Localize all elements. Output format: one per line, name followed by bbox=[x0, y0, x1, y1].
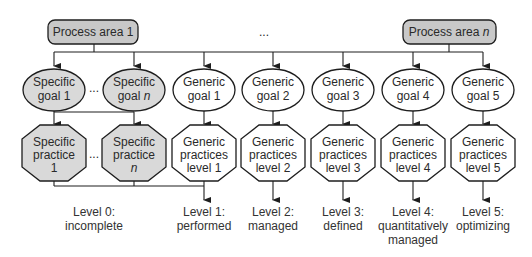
svg-text:practices: practices bbox=[459, 148, 507, 162]
svg-text:Level 5:: Level 5: bbox=[462, 205, 504, 219]
process-area-n-label: Process area n bbox=[409, 25, 490, 39]
svg-text:defined: defined bbox=[323, 219, 362, 233]
svg-text:Generic: Generic bbox=[252, 75, 294, 89]
svg-text:Generic: Generic bbox=[462, 135, 504, 149]
svg-text:managed: managed bbox=[248, 219, 298, 233]
svg-text:Generic: Generic bbox=[392, 75, 434, 89]
practice-generic-level-4: Generic practices level 4 bbox=[381, 125, 445, 181]
goal-specific-n: Specific goal n bbox=[103, 69, 165, 111]
svg-text:Generic: Generic bbox=[252, 135, 294, 149]
process-area-1: Process area 1 bbox=[48, 20, 138, 44]
level-2-label: Level 2: managed bbox=[248, 205, 298, 233]
svg-text:quantitatively: quantitatively bbox=[378, 219, 448, 233]
process-area-n: Process area n bbox=[403, 20, 496, 44]
practice-generic-level-3: Generic practices level 3 bbox=[311, 125, 375, 181]
svg-text:level 2: level 2 bbox=[256, 161, 291, 175]
svg-text:goal 1: goal 1 bbox=[188, 89, 221, 103]
svg-text:practices: practices bbox=[319, 148, 367, 162]
level-0-label: Level 0: incomplete bbox=[65, 205, 123, 233]
goal-specific-1: Specific goal 1 bbox=[23, 69, 85, 111]
svg-text:optimizing: optimizing bbox=[456, 219, 510, 233]
svg-text:Specific: Specific bbox=[113, 135, 155, 149]
level-4-label: Level 4: quantitatively managed bbox=[378, 205, 448, 247]
svg-text:Specific: Specific bbox=[113, 75, 155, 89]
svg-text:Specific: Specific bbox=[33, 75, 75, 89]
top-connectors bbox=[54, 44, 483, 66]
svg-text:managed: managed bbox=[388, 233, 438, 247]
svg-text:goal n: goal n bbox=[118, 89, 151, 103]
svg-text:goal 4: goal 4 bbox=[397, 89, 430, 103]
svg-text:practices: practices bbox=[389, 148, 437, 162]
practice-specific-n: Specific practice n bbox=[102, 125, 166, 181]
svg-text:Generic: Generic bbox=[322, 75, 364, 89]
svg-text:Generic: Generic bbox=[462, 75, 504, 89]
process-area-1-label: Process area 1 bbox=[53, 25, 134, 39]
goal-ellipsis: ... bbox=[89, 81, 99, 95]
goal-generic-3: Generic goal 3 bbox=[312, 69, 374, 111]
practice-specific-1: Specific practice 1 bbox=[22, 125, 86, 181]
goal-generic-5: Generic goal 5 bbox=[452, 69, 514, 111]
goal-generic-4: Generic goal 4 bbox=[382, 69, 444, 111]
svg-text:Level 2:: Level 2: bbox=[252, 205, 294, 219]
svg-text:Level 3:: Level 3: bbox=[322, 205, 364, 219]
level-3-label: Level 3: defined bbox=[322, 205, 364, 233]
svg-text:performed: performed bbox=[177, 219, 232, 233]
svg-text:Level 4:: Level 4: bbox=[392, 205, 434, 219]
svg-text:n: n bbox=[131, 161, 138, 175]
middle-connectors bbox=[54, 111, 483, 124]
svg-text:level 4: level 4 bbox=[396, 161, 431, 175]
goal-generic-1: Generic goal 1 bbox=[173, 69, 235, 111]
svg-text:Generic: Generic bbox=[392, 135, 434, 149]
svg-text:practices: practices bbox=[249, 148, 297, 162]
bottom-connectors bbox=[54, 181, 483, 200]
svg-text:Level 1:: Level 1: bbox=[183, 205, 225, 219]
svg-text:Generic: Generic bbox=[183, 135, 225, 149]
goal-generic-2: Generic goal 2 bbox=[242, 69, 304, 111]
svg-text:level 1: level 1 bbox=[187, 161, 222, 175]
practice-generic-level-1: Generic practices level 1 bbox=[172, 125, 236, 181]
top-ellipsis: ... bbox=[259, 25, 269, 39]
cmmi-diagram: Process area 1 ... Process area n Specif… bbox=[0, 0, 532, 257]
svg-text:Level 0:: Level 0: bbox=[73, 205, 115, 219]
svg-text:incomplete: incomplete bbox=[65, 219, 123, 233]
svg-text:practice: practice bbox=[113, 148, 155, 162]
level-1-label: Level 1: performed bbox=[177, 205, 232, 233]
level-5-label: Level 5: optimizing bbox=[456, 205, 510, 233]
svg-text:level 3: level 3 bbox=[326, 161, 361, 175]
svg-text:goal 1: goal 1 bbox=[38, 89, 71, 103]
svg-text:practice: practice bbox=[33, 148, 75, 162]
svg-text:Generic: Generic bbox=[322, 135, 364, 149]
practice-ellipsis: ... bbox=[89, 147, 99, 161]
svg-text:goal 3: goal 3 bbox=[327, 89, 360, 103]
svg-text:level 5: level 5 bbox=[466, 161, 501, 175]
svg-text:practices: practices bbox=[180, 148, 228, 162]
svg-text:goal 5: goal 5 bbox=[467, 89, 500, 103]
practice-generic-level-2: Generic practices level 2 bbox=[241, 125, 305, 181]
svg-text:Specific: Specific bbox=[33, 135, 75, 149]
svg-text:goal 2: goal 2 bbox=[257, 89, 290, 103]
practice-generic-level-5: Generic practices level 5 bbox=[451, 125, 515, 181]
svg-text:1: 1 bbox=[51, 161, 58, 175]
svg-text:Generic: Generic bbox=[183, 75, 225, 89]
